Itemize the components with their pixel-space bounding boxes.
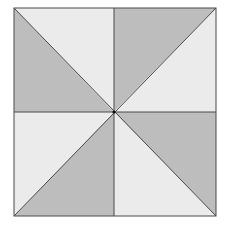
center-point bbox=[112, 110, 115, 113]
pinwheel-diagram bbox=[0, 0, 230, 227]
